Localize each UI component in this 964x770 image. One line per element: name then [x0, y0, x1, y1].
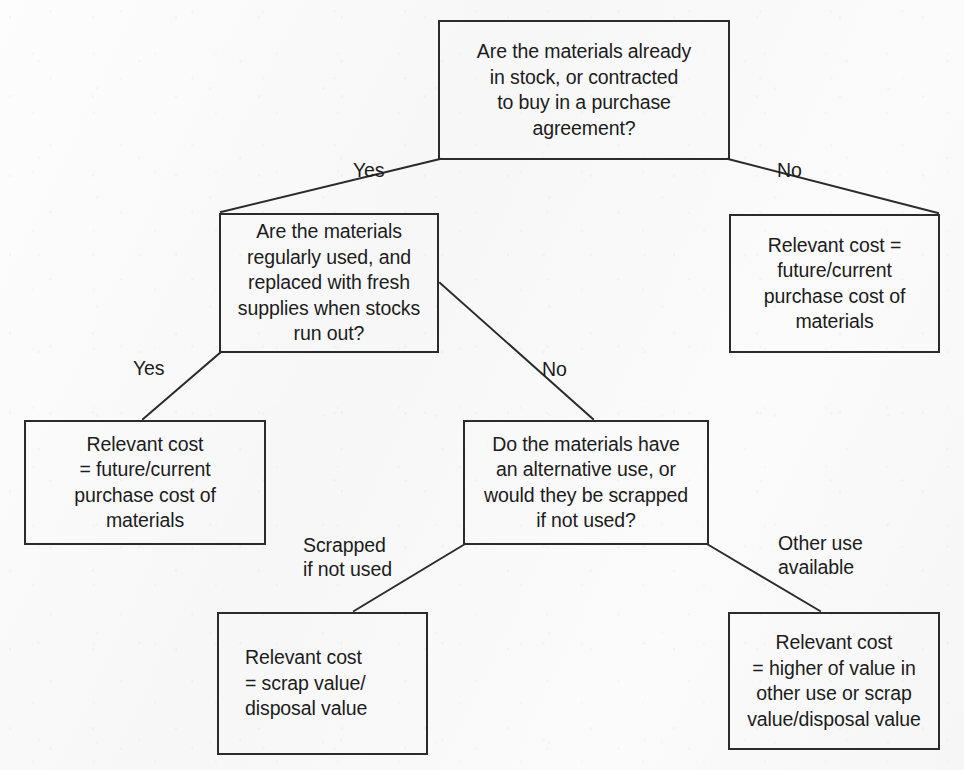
node-r3-text: Relevant cost = scrap value/ disposal va…: [219, 645, 426, 722]
edge-label-yes-regularly-used: Yes: [133, 356, 165, 380]
node-r4-text: Relevant cost = higher of value in other…: [730, 630, 938, 732]
edge-label-scrapped-if-not-used: Scrapped if not used: [303, 533, 392, 581]
node-outcome-scrap-value[interactable]: Relevant cost = scrap value/ disposal va…: [217, 612, 428, 755]
node-q2-materials-regularly-used[interactable]: Are the materials regularly used, and re…: [219, 213, 439, 353]
node-q3-alternative-use[interactable]: Do the materials have an alternative use…: [463, 420, 709, 545]
edge-label-no-in-stock: No: [777, 158, 802, 182]
node-outcome-higher-of-value[interactable]: Relevant cost = higher of value in other…: [728, 612, 940, 750]
edge-label-other-use-available: Other use available: [778, 531, 863, 579]
edge-label-no-regularly-used: No: [542, 357, 567, 381]
node-q1-text: Are the materials already in stock, or c…: [440, 39, 728, 141]
node-q2-text: Are the materials regularly used, and re…: [221, 219, 437, 347]
node-q1-materials-in-stock[interactable]: Are the materials already in stock, or c…: [438, 20, 730, 160]
node-outcome-future-current-purchase-cost-right[interactable]: Relevant cost = future/current purchase …: [729, 214, 940, 353]
node-q3-text: Do the materials have an alternative use…: [465, 432, 707, 534]
diagram-canvas: Are the materials already in stock, or c…: [0, 0, 964, 770]
connector-q2-to-q3: [440, 283, 593, 419]
edge-label-yes-in-stock: Yes: [353, 158, 385, 182]
connector-q1-to-q2: [221, 159, 440, 212]
connector-q1-to-r1: [728, 159, 938, 213]
node-outcome-future-current-purchase-cost-left[interactable]: Relevant cost = future/current purchase …: [24, 420, 266, 545]
node-r2-text: Relevant cost = future/current purchase …: [26, 432, 264, 534]
node-r1-text: Relevant cost = future/current purchase …: [731, 233, 938, 335]
